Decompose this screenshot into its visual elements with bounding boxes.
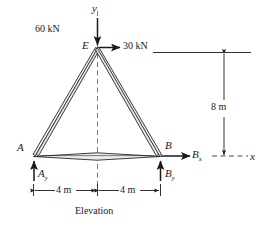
- joint-label-e: E: [82, 40, 89, 51]
- load-30kn-label: 30 kN: [123, 41, 148, 51]
- y-axis-label: y: [92, 3, 97, 14]
- reaction-ay-symbol: A: [38, 167, 45, 179]
- reaction-by-symbol: B: [165, 167, 172, 179]
- reaction-ay-label: Ay: [38, 168, 48, 182]
- figure-drawing: [0, 0, 265, 233]
- member-ab: [34, 153, 161, 160]
- reaction-bx-subscript: x: [199, 155, 202, 163]
- joint-label-b: B: [165, 140, 172, 151]
- reaction-ay-subscript: y: [45, 174, 48, 182]
- load-60kn-label: 60 kN: [35, 24, 60, 34]
- figure-caption: Elevation: [75, 206, 113, 216]
- member-ae: [33, 48, 100, 156]
- joint-label-a: A: [17, 142, 24, 153]
- x-axis-label: x: [250, 151, 255, 162]
- reaction-bx-symbol: B: [192, 148, 199, 160]
- span-left-dimension-label: 4 m: [56, 185, 71, 195]
- span-right-dimension-label: 4 m: [120, 185, 135, 195]
- reaction-bx-label: Bx: [192, 149, 202, 163]
- reaction-by-subscript: y: [172, 174, 175, 182]
- height-dimension-label: 8 m: [211, 102, 226, 112]
- reaction-by-label: By: [165, 168, 175, 182]
- member-be: [95, 48, 161, 156]
- truss-elevation-figure: y 60 kN E 30 kN 8 m A B Bx x Ay By 4 m 4…: [0, 0, 265, 233]
